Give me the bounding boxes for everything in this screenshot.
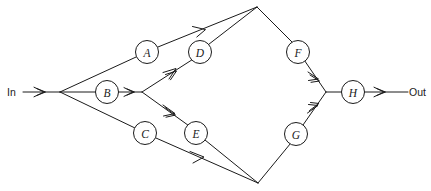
node-d[interactable]: D — [189, 41, 212, 64]
edge-a-to-top-apex — [157, 7, 258, 48]
edge-d-to-top-apex — [209, 7, 258, 45]
edge-top-apex-to-f — [257, 7, 293, 43]
node-d-label: D — [195, 47, 205, 59]
node-h[interactable]: H — [342, 81, 365, 104]
edge-split-to-d — [142, 60, 193, 93]
node-a-label: A — [142, 47, 151, 59]
edge-c-to-bottom-apex — [155, 138, 258, 184]
node-g-label: G — [292, 129, 301, 141]
node-e-label: E — [191, 128, 199, 140]
node-c-label: C — [141, 128, 149, 140]
edge-bottom-apex-to-g — [258, 144, 291, 184]
output-terminal-label: Out — [409, 86, 426, 98]
network-diagram-canvas: A B C D E F — [0, 0, 431, 191]
input-terminal-label: In — [7, 86, 16, 98]
node-c[interactable]: C — [134, 122, 157, 145]
node-b-label: B — [103, 87, 110, 99]
node-f-label: F — [293, 47, 302, 59]
arrow-c-to-bottom-apex — [190, 152, 204, 164]
nodes-layer: A B C D E F — [96, 41, 365, 146]
node-g[interactable]: G — [285, 123, 308, 146]
edge-e-to-bottom-apex — [205, 140, 258, 183]
node-b[interactable]: B — [96, 81, 119, 104]
node-h-label: H — [348, 87, 358, 99]
network-diagram-svg: A B C D E F — [0, 0, 431, 191]
edge-split-to-e — [142, 92, 189, 126]
node-f[interactable]: F — [287, 41, 310, 64]
node-a[interactable]: A — [136, 41, 159, 64]
node-e[interactable]: E — [185, 122, 208, 145]
